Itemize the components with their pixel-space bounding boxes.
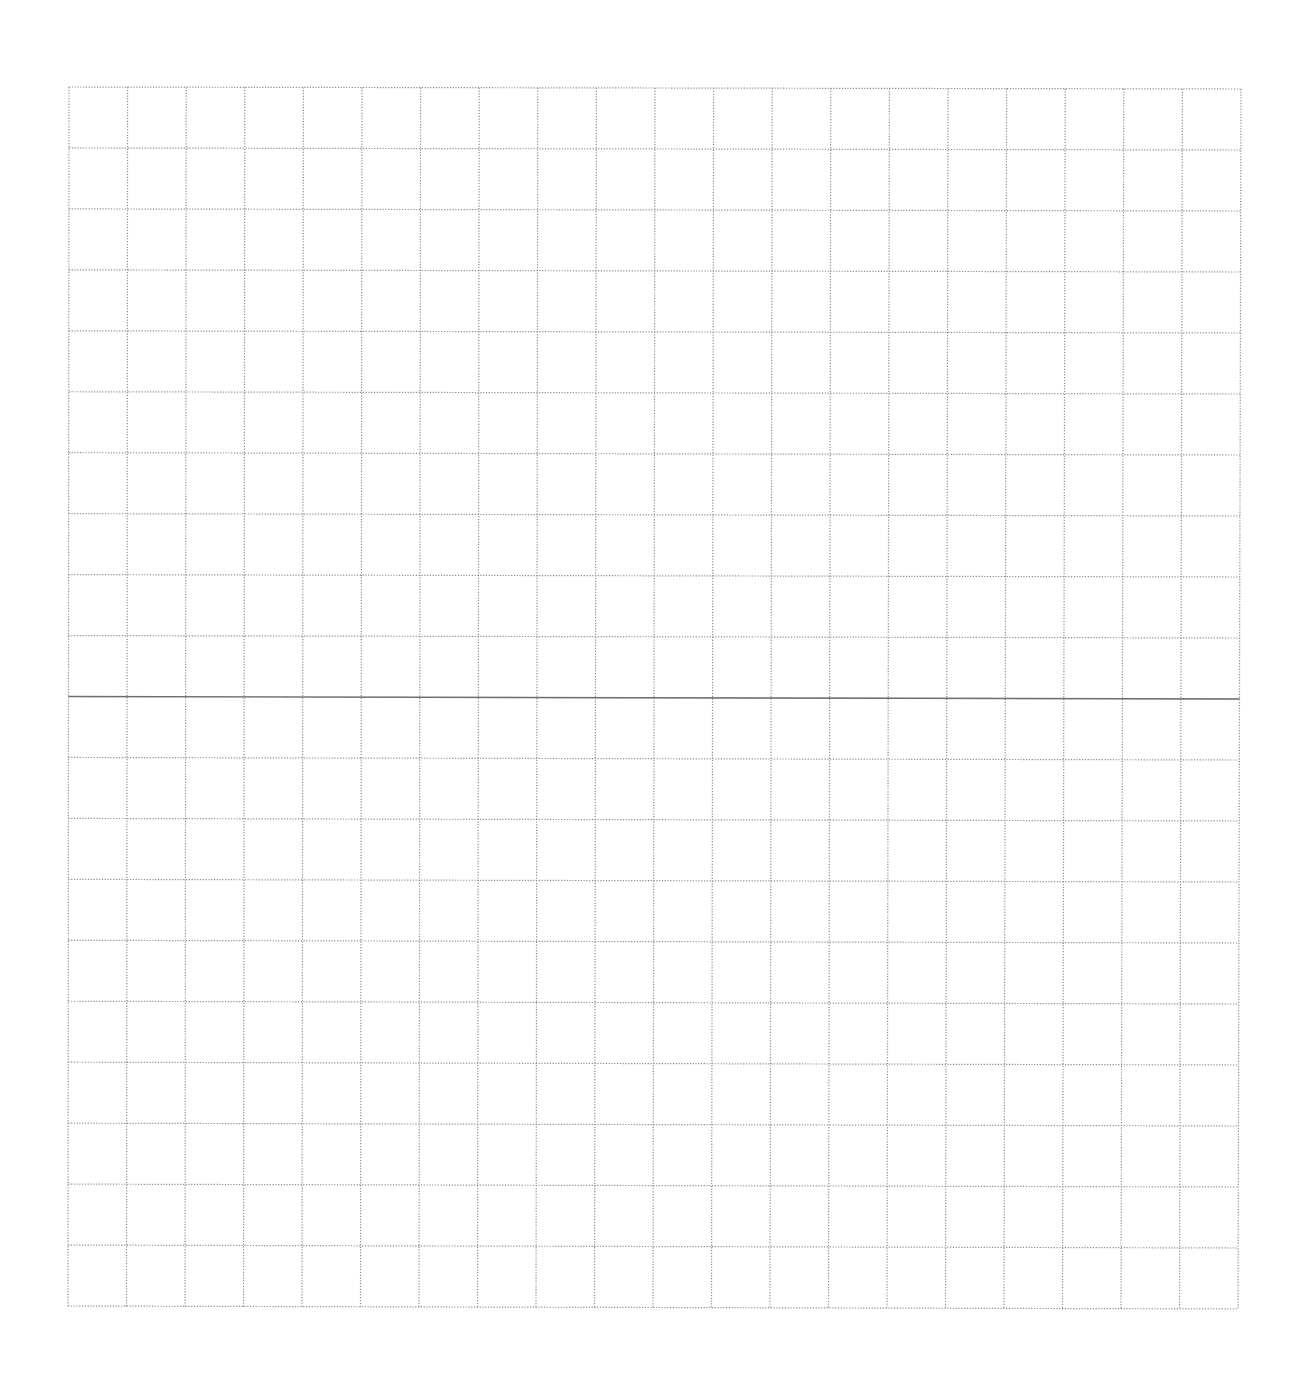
grid-paper-page bbox=[0, 0, 1304, 1388]
grid-paper bbox=[0, 0, 1304, 1388]
